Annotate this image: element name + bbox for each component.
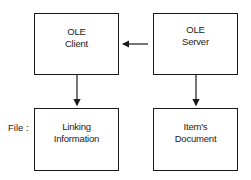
file-row-label: File : bbox=[8, 122, 29, 133]
ole-client-box: OLE Client bbox=[34, 13, 119, 75]
linking-information-label: Linking Information bbox=[35, 121, 118, 145]
ole-server-box: OLE Server bbox=[153, 13, 238, 75]
label-line: Item's bbox=[154, 121, 237, 133]
label-line: Linking bbox=[35, 121, 118, 133]
label-line: Client bbox=[35, 38, 118, 50]
linking-information-box: Linking Information bbox=[34, 108, 119, 171]
label-line: OLE bbox=[35, 26, 118, 38]
label-line: Document bbox=[154, 133, 237, 145]
ole-server-label: OLE Server bbox=[154, 24, 237, 48]
items-document-box: Item's Document bbox=[153, 108, 238, 171]
label-line: Information bbox=[35, 133, 118, 145]
label-line: Server bbox=[154, 36, 237, 48]
label-line: OLE bbox=[154, 24, 237, 36]
ole-client-label: OLE Client bbox=[35, 26, 118, 50]
items-document-label: Item's Document bbox=[154, 121, 237, 145]
